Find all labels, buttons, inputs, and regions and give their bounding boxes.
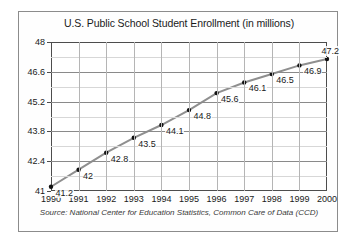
- y-axis-tick-mark: [47, 191, 51, 192]
- y-axis-tick-mark: [47, 72, 51, 73]
- data-point-label: 42: [83, 171, 94, 181]
- data-point-label: 47.2: [321, 46, 340, 56]
- x-axis-label: 1994: [151, 194, 171, 204]
- data-point-label: 46.9: [303, 66, 322, 76]
- x-axis-label: 1998: [262, 194, 282, 204]
- data-point-label: 43.5: [138, 139, 157, 149]
- data-point-label: 46.5: [276, 75, 295, 85]
- data-point-label: 44.1: [165, 126, 184, 136]
- data-point-marker: [297, 63, 301, 67]
- source-caption: Source: National Center for Education St…: [19, 208, 339, 217]
- data-point-marker: [132, 136, 136, 140]
- data-point-label: 45.6: [221, 94, 240, 104]
- y-axis-label: 48: [35, 37, 45, 47]
- y-axis-label: 43.8: [27, 126, 45, 136]
- data-point-marker: [104, 150, 108, 154]
- y-axis-tick-mark: [47, 102, 51, 103]
- plot-wrapper: 4846.645.243.842.44119901991199219931994…: [51, 42, 327, 191]
- x-axis-label: 1996: [207, 194, 227, 204]
- x-axis-label: 1997: [234, 194, 254, 204]
- y-axis-tick-mark: [47, 131, 51, 132]
- data-point-marker: [49, 185, 53, 189]
- x-axis-label: 1993: [124, 194, 144, 204]
- data-point-marker: [214, 91, 218, 95]
- chart-title: U.S. Public School Student Enrollment (i…: [19, 17, 339, 29]
- data-point-marker: [187, 108, 191, 112]
- data-point-marker: [325, 57, 329, 61]
- x-axis-label: 1992: [96, 194, 116, 204]
- chart-figure: U.S. Public School Student Enrollment (i…: [18, 11, 338, 232]
- data-point-label: 41.2: [55, 188, 74, 198]
- y-axis-label: 42.4: [27, 156, 45, 166]
- x-axis-label: 1999: [289, 194, 309, 204]
- y-axis-label: 45.2: [27, 97, 45, 107]
- data-point-marker: [159, 123, 163, 127]
- data-point-label: 46.1: [248, 83, 267, 93]
- data-point-marker: [76, 168, 80, 172]
- x-axis-label: 1995: [179, 194, 199, 204]
- x-axis-label: 2000: [317, 194, 337, 204]
- y-axis-tick-mark: [47, 42, 51, 43]
- y-axis-label: 46.6: [27, 67, 45, 77]
- enrollment-line-series: [51, 42, 327, 191]
- y-axis-tick-mark: [47, 161, 51, 162]
- data-point-marker: [242, 80, 246, 84]
- data-point-label: 44.8: [193, 111, 212, 121]
- data-point-marker: [270, 72, 274, 76]
- data-point-label: 42.8: [110, 154, 129, 164]
